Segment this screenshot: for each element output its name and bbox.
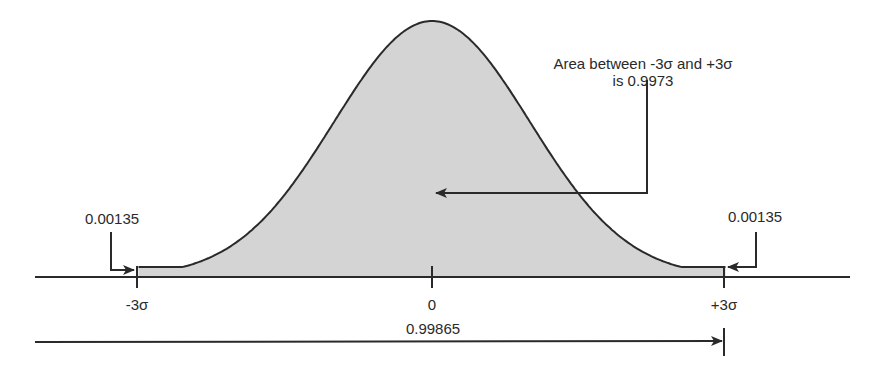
center-area-annotation: Area between -3σ and +3σ is 0.9973 [553,55,732,89]
cumulative-arrow [35,341,722,342]
center-area-line2: is 0.9973 [553,72,732,89]
right-tail-label: 0.00135 [728,208,782,225]
left-tail-label: 0.00135 [85,210,139,227]
center-area-line1: Area between -3σ and +3σ [553,55,732,72]
tick-label-plus-3sigma: +3σ [711,296,737,313]
cumulative-label: 0.99865 [406,320,460,337]
right-tail-arrow [728,232,756,267]
tick-label-minus-3sigma: -3σ [126,296,149,313]
left-tail-arrow [111,232,134,270]
tick-label-zero: 0 [428,296,436,313]
